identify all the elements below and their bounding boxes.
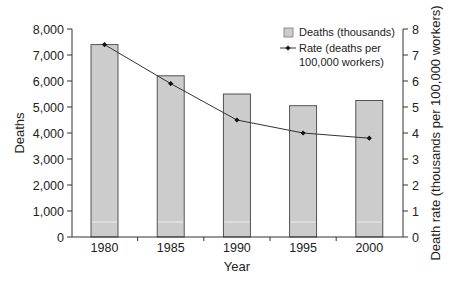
y2-tick-label: 4 [412,127,419,141]
y-tick-label: 8,000 [33,23,64,37]
x-tick-label: 1990 [223,241,251,255]
x-tick-label: 1980 [91,241,119,255]
x-tick-label: 1985 [157,241,185,255]
bar-2000 [356,101,383,238]
y-tick-label: 5,000 [33,101,64,115]
y2-tick-label: 0 [412,231,419,245]
bar-1995 [290,106,317,237]
x-tick-label: 1995 [289,241,317,255]
bar-1985 [157,76,184,237]
legend-bar-swatch [284,28,293,37]
x-axis-title: Year [224,259,251,274]
combo-chart: 01,0002,0003,0004,0005,0006,0007,0008,00… [0,0,456,287]
y-tick-label: 4,000 [33,127,64,141]
y-tick-label: 7,000 [33,49,64,63]
legend: Deaths (thousands) Rate (deaths per 100,… [280,26,395,68]
x-axis-ticks: 19801985199019952000 [91,237,384,255]
right-axis-ticks: 012345678 [403,23,419,245]
legend-line-label-2: 100,000 workers) [299,56,384,68]
y-tick-label: 2,000 [33,179,64,193]
y2-tick-label: 3 [412,153,419,167]
y2-tick-label: 1 [412,205,419,219]
y2-tick-label: 8 [412,23,419,37]
bar-1990 [223,94,250,237]
y2-tick-label: 5 [412,101,419,115]
left-axis-ticks: 01,0002,0003,0004,0005,0006,0007,0008,00… [33,23,72,245]
legend-diamond-marker-icon [286,46,291,51]
bar-1980 [91,45,118,237]
legend-line-label-1: Rate (deaths per [299,42,381,54]
y-tick-label: 6,000 [33,75,64,89]
y2-tick-label: 6 [412,75,419,89]
legend-bar-label: Deaths (thousands) [299,26,395,38]
y2-tick-label: 7 [412,49,419,63]
deaths-bars [91,45,383,237]
y2-axis-title: Death rate (thousands per 100,000 worker… [428,5,443,260]
x-tick-label: 2000 [355,241,383,255]
y-tick-label: 3,000 [33,153,64,167]
y-tick-label: 1,000 [33,205,64,219]
y-axis-title: Deaths [12,112,27,154]
y2-tick-label: 2 [412,179,419,193]
y-tick-label: 0 [57,231,64,245]
